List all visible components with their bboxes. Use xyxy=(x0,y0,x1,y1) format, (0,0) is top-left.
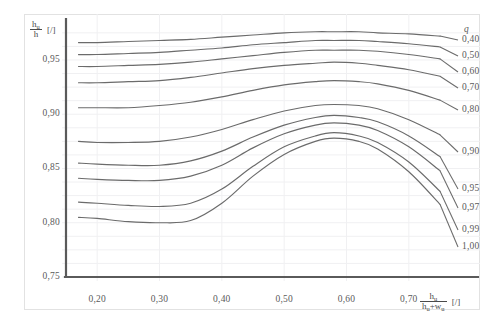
legend-header: q xyxy=(464,24,469,34)
x-axis-title: hu hu+wu [/] xyxy=(420,292,460,312)
leader-line-0-70 xyxy=(440,76,458,88)
x-tick-label-3: 0,50 xyxy=(264,294,304,304)
curve-0-97 xyxy=(78,123,440,181)
legend-label-0-50: 0,50 xyxy=(462,50,479,60)
leader-line-0-97 xyxy=(440,171,458,208)
plot-canvas xyxy=(0,0,504,333)
x-tick-label-4: 0,60 xyxy=(327,294,367,304)
legend-label-0-60: 0,60 xyxy=(462,66,479,76)
leader-line-0-80 xyxy=(440,100,458,110)
y-tick-label-1: 0,80 xyxy=(26,217,60,227)
x-tick-label-2: 0,40 xyxy=(202,294,242,304)
legend-label-0-40: 0,40 xyxy=(462,34,479,44)
x-axis-denominator-sub-b: u xyxy=(441,305,444,312)
leader-line-0-95 xyxy=(440,157,458,189)
legend-label-0-80: 0,80 xyxy=(462,104,479,114)
x-axis-denominator-op: +w xyxy=(430,301,442,311)
curve-0-90 xyxy=(78,104,440,142)
legend-label-0-97: 0,97 xyxy=(462,202,479,212)
curve-0-60 xyxy=(78,50,440,67)
y-axis-title: hu h [/] xyxy=(30,20,56,40)
leader-line-0-60 xyxy=(440,59,458,72)
leader-line-0-90 xyxy=(440,135,458,152)
chart-figure: 0,400,500,600,700,800,900,950,970,991,00… xyxy=(0,0,504,333)
y-axis-fraction: hu h xyxy=(30,20,42,40)
y-tick-label-2: 0,85 xyxy=(26,162,60,172)
x-axis-denominator-sub-a: u xyxy=(427,305,430,312)
x-axis-fraction: hu hu+wu xyxy=(420,292,447,312)
leader-line-0-40 xyxy=(440,36,458,40)
y-axis-numerator-sub: u xyxy=(37,23,40,30)
legend-label-0-95: 0,95 xyxy=(462,183,479,193)
x-axis-unit: [/] xyxy=(449,297,461,307)
legend-label-0-70: 0,70 xyxy=(462,82,479,92)
y-tick-label-4: 0,95 xyxy=(26,54,60,64)
x-axis-denominator: hu+wu xyxy=(420,302,447,311)
x-axis-numerator-sub: u xyxy=(434,295,437,302)
curve-0-95 xyxy=(78,115,440,165)
x-tick-label-0: 0,20 xyxy=(77,294,117,304)
legend-label-0-99: 0,99 xyxy=(462,224,479,234)
y-tick-label-0: 0,75 xyxy=(26,271,60,281)
axis-lines xyxy=(65,19,478,277)
x-tick-label-1: 0,30 xyxy=(140,294,180,304)
y-tick-label-3: 0,90 xyxy=(26,108,60,118)
legend-label-0-90: 0,90 xyxy=(462,146,479,156)
curve-0-80 xyxy=(78,81,440,108)
y-axis-unit: [/] xyxy=(44,25,56,35)
leader-line-0-50 xyxy=(440,47,458,56)
y-axis-denominator: h xyxy=(30,30,42,39)
legend-label-1-00: 1,00 xyxy=(462,241,479,251)
